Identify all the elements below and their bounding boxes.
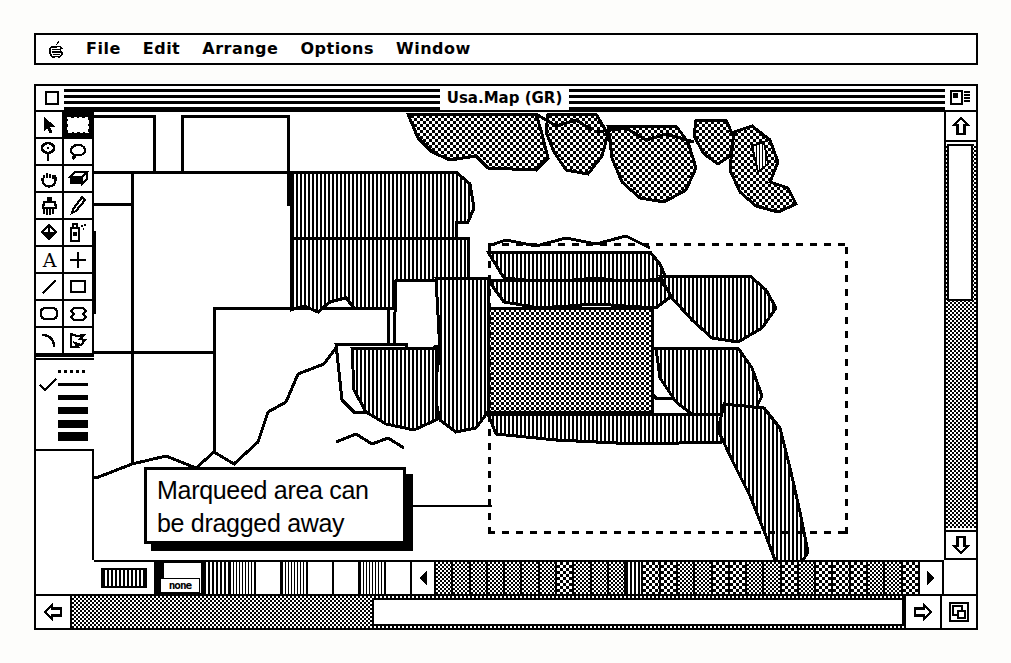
pattern-swatch[interactable] xyxy=(471,562,488,594)
vertical-scroll-track[interactable] xyxy=(946,144,976,528)
menu-item-window[interactable]: Window xyxy=(385,41,482,57)
pattern-swatch[interactable] xyxy=(557,562,574,594)
horizontal-scroll-thumb[interactable] xyxy=(372,598,904,626)
tool-grid: A xyxy=(36,112,94,355)
pattern-swatch[interactable] xyxy=(282,562,308,594)
pattern-swatch[interactable] xyxy=(747,562,764,594)
vertical-scrollbar[interactable] xyxy=(944,112,976,560)
drawing-canvas[interactable]: Marqueed area can be dragged away xyxy=(36,112,944,560)
pattern-swatch[interactable] xyxy=(522,562,539,594)
pattern-swatch[interactable] xyxy=(334,562,360,594)
pattern-none-button[interactable]: none xyxy=(156,562,204,594)
pattern-swatch[interactable] xyxy=(851,562,868,594)
callout-leader-line xyxy=(406,505,492,507)
paint-bucket-tool[interactable] xyxy=(36,220,64,247)
spray-can-tool[interactable] xyxy=(64,220,92,247)
scroll-left-arrow-icon[interactable] xyxy=(36,596,72,628)
menu-item-edit[interactable]: Edit xyxy=(132,41,192,57)
pattern-swatch[interactable] xyxy=(436,562,453,594)
pattern-swatch[interactable] xyxy=(574,562,591,594)
arrow-pointer-tool[interactable] xyxy=(36,112,64,139)
pattern-swatch[interactable] xyxy=(833,562,850,594)
pattern-swatch[interactable] xyxy=(730,562,747,594)
menu-item-file[interactable]: File xyxy=(75,41,132,57)
horizontal-scrollbar[interactable] xyxy=(36,594,976,628)
pattern-swatch[interactable] xyxy=(308,562,334,594)
scroll-right-arrow-icon[interactable] xyxy=(904,596,942,628)
pattern-swatch[interactable] xyxy=(713,562,730,594)
horizontal-scroll-track[interactable] xyxy=(72,596,904,628)
pattern-scroll-right-icon[interactable] xyxy=(920,562,944,594)
line-width-3[interactable] xyxy=(36,404,94,417)
line-width-2[interactable] xyxy=(36,391,94,404)
pattern-swatch[interactable] xyxy=(230,562,256,594)
marquee-selection-tool[interactable] xyxy=(64,112,92,139)
pattern-swatch[interactable] xyxy=(678,562,695,594)
lasso-freehand-tool[interactable] xyxy=(64,139,92,166)
rounded-rectangle-tool[interactable] xyxy=(36,301,64,328)
paintbrush-tool[interactable] xyxy=(36,193,64,220)
pattern-near-group xyxy=(204,562,412,594)
line-width-5[interactable] xyxy=(36,430,94,443)
scroll-down-arrow-icon[interactable] xyxy=(946,530,976,560)
grabber-hand-tool[interactable] xyxy=(36,166,64,193)
line-width-1[interactable] xyxy=(36,378,94,391)
pattern-swatch[interactable] xyxy=(453,562,470,594)
vertical-scroll-thumb[interactable] xyxy=(947,144,973,301)
zoom-box-icon[interactable] xyxy=(950,90,970,106)
title-bar-stripes-right xyxy=(569,86,945,110)
pattern-swatch[interactable] xyxy=(885,562,902,594)
eraser-tool[interactable] xyxy=(64,166,92,193)
window-title-bar[interactable]: Usa.Map (GR) xyxy=(36,86,976,112)
pattern-scroll-left-icon[interactable] xyxy=(412,562,436,594)
tool-palette: A xyxy=(36,112,94,560)
menu-bar: File Edit Arrange Options Window xyxy=(34,33,978,65)
window-title: Usa.Map (GR) xyxy=(440,91,570,106)
line-width-4[interactable] xyxy=(36,417,94,430)
rectangle-tool[interactable] xyxy=(64,274,92,301)
scroll-up-arrow-icon[interactable] xyxy=(946,112,976,142)
pattern-swatch[interactable] xyxy=(799,562,816,594)
grow-box-icon[interactable] xyxy=(942,596,976,628)
freeform-polygon-tool[interactable] xyxy=(64,328,92,355)
menu-item-options[interactable]: Options xyxy=(289,41,385,57)
pattern-swatch[interactable] xyxy=(868,562,885,594)
line-tool[interactable] xyxy=(36,274,64,301)
svg-text:A: A xyxy=(41,251,56,269)
pattern-swatch[interactable] xyxy=(386,562,412,594)
apple-logo-icon[interactable] xyxy=(36,40,75,58)
current-pattern-swatch[interactable] xyxy=(94,562,156,594)
pattern-swatch[interactable] xyxy=(609,562,626,594)
pencil-tool[interactable] xyxy=(64,193,92,220)
lasso-tool[interactable] xyxy=(36,139,64,166)
pattern-swatch[interactable] xyxy=(903,562,920,594)
pattern-swatch[interactable] xyxy=(256,562,282,594)
title-bar-stripes-left xyxy=(64,86,440,110)
pattern-swatch[interactable] xyxy=(488,562,505,594)
pattern-swatch[interactable] xyxy=(360,562,386,594)
polygon-tool[interactable] xyxy=(64,301,92,328)
text-tool[interactable]: A xyxy=(36,247,64,274)
callout-annotation: Marqueed area can be dragged away xyxy=(144,467,406,544)
pattern-scroll-strip[interactable] xyxy=(436,562,920,594)
pattern-swatch[interactable] xyxy=(782,562,799,594)
pattern-swatch[interactable] xyxy=(643,562,660,594)
pattern-swatch[interactable] xyxy=(661,562,678,594)
pattern-swatch[interactable] xyxy=(764,562,781,594)
line-width-dotted[interactable] xyxy=(36,365,94,378)
crosshair-point-tool[interactable] xyxy=(64,247,92,274)
pattern-swatch[interactable] xyxy=(695,562,712,594)
pattern-swatch[interactable] xyxy=(816,562,833,594)
pattern-swatch[interactable] xyxy=(592,562,609,594)
close-box-icon[interactable] xyxy=(45,91,59,105)
marquee-selection-region[interactable] xyxy=(488,243,848,534)
menu-item-arrange[interactable]: Arrange xyxy=(191,41,289,57)
pattern-swatch[interactable] xyxy=(540,562,557,594)
line-width-selector xyxy=(36,360,94,451)
pattern-swatch[interactable] xyxy=(204,562,230,594)
pattern-swatch[interactable] xyxy=(626,562,643,594)
callout-line-2: be dragged away xyxy=(157,507,393,540)
callout-line-1: Marqueed area can xyxy=(157,474,393,507)
pattern-swatch[interactable] xyxy=(505,562,522,594)
arc-curve-tool[interactable] xyxy=(36,328,64,355)
